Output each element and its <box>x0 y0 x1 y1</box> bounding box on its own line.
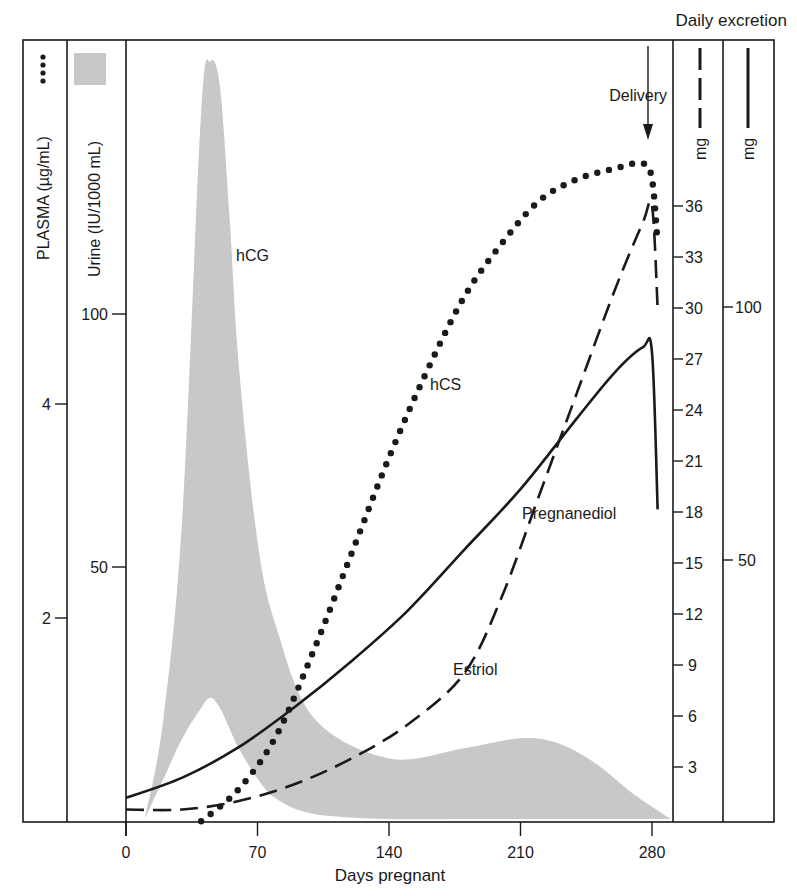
estriol-tick-15: 15 <box>685 555 703 572</box>
estriol-tick-3: 3 <box>688 759 697 776</box>
estriol-mg-axis: mg 369121518212427303336 <box>673 48 709 776</box>
estriol-tick-21: 21 <box>685 453 703 470</box>
arrow-down-icon <box>643 124 653 140</box>
estriol-tick-33: 33 <box>685 249 703 266</box>
frame <box>23 40 774 836</box>
pregnanediol-tick-50: 50 <box>738 552 756 569</box>
x-tick-0: 0 <box>122 844 131 861</box>
urine-legend-swatch-icon <box>74 53 106 85</box>
estriol-tick-9: 9 <box>688 657 697 674</box>
urine-tick-100: 100 <box>81 306 108 323</box>
hcg-band <box>145 59 671 819</box>
label-pregnanediol: Pregnanediol <box>522 505 616 522</box>
estriol-mg-label: mg <box>692 138 709 160</box>
x-axis: 070140210280 Days pregnant <box>122 822 666 885</box>
plasma-legend-dots-icon <box>40 54 45 83</box>
estriol-tick-24: 24 <box>685 402 703 419</box>
x-axis-label: Days pregnant <box>335 866 446 885</box>
plasma-axis-label: PLASMA (µg/mL) <box>35 136 52 260</box>
estriol-tick-30: 30 <box>685 300 703 317</box>
label-estriol: Estriol <box>453 661 497 678</box>
plot-area <box>126 59 671 824</box>
plasma-tick-4: 4 <box>42 396 51 413</box>
hormone-chart: Daily excretion PLASMA (µg/mL) 4 2 Urine… <box>0 0 797 896</box>
plasma-axis: PLASMA (µg/mL) 4 2 <box>35 54 67 627</box>
estriol-tick-18: 18 <box>685 504 703 521</box>
estriol-tick-12: 12 <box>685 606 703 623</box>
pregnanediol-mg-axis: mg 100 50 <box>723 48 762 569</box>
urine-tick-50: 50 <box>90 559 108 576</box>
delivery-label: Delivery <box>609 87 667 104</box>
x-tick-70: 70 <box>249 844 267 861</box>
label-hcg: hCG <box>236 247 269 264</box>
label-hcs: hCS <box>430 376 461 393</box>
urine-axis: Urine (IU/1000 mL) 100 50 <box>74 53 126 576</box>
plasma-tick-2: 2 <box>42 610 51 627</box>
pregnanediol-mg-label: mg <box>740 138 757 160</box>
estriol-tick-36: 36 <box>685 198 703 215</box>
estriol-tick-27: 27 <box>685 351 703 368</box>
x-tick-210: 210 <box>507 844 534 861</box>
daily-excretion-header: Daily excretion <box>676 11 788 30</box>
x-tick-140: 140 <box>376 844 403 861</box>
x-tick-280: 280 <box>639 844 666 861</box>
estriol-tick-6: 6 <box>688 708 697 725</box>
pregnanediol-tick-100: 100 <box>735 299 762 316</box>
urine-axis-label: Urine (IU/1000 mL) <box>86 141 103 277</box>
delivery-annotation: Delivery <box>609 46 667 140</box>
